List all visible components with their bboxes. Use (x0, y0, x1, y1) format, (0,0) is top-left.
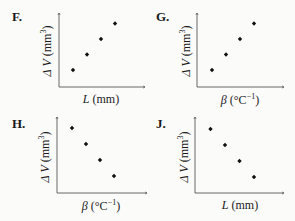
data-point (252, 175, 256, 179)
data-point (84, 142, 88, 146)
data-point (223, 143, 227, 147)
data-point (85, 52, 89, 56)
data-point (112, 174, 116, 178)
data-point (210, 68, 214, 72)
data-point (99, 37, 103, 41)
data-point (71, 68, 75, 72)
data-point (70, 126, 74, 130)
data-point (98, 158, 102, 162)
scatter-plot-g (197, 13, 284, 87)
data-point (237, 159, 241, 163)
scatter-plot-f (59, 13, 145, 87)
data-point (238, 37, 242, 41)
data-point (208, 127, 212, 131)
data-point (113, 21, 117, 25)
data-point (224, 52, 228, 56)
scatter-plot-j (195, 117, 284, 193)
plots-group (57, 13, 284, 193)
plots-canvas (0, 0, 295, 221)
scatter-plot-h (57, 117, 147, 193)
data-point (252, 21, 256, 25)
